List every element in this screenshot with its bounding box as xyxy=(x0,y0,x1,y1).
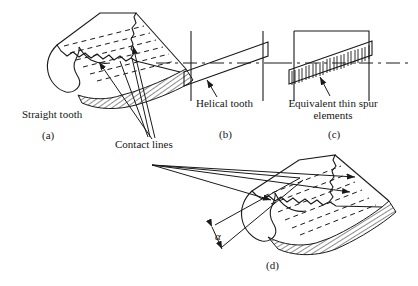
panel-d-tooth-profile-right xyxy=(275,193,306,211)
panel-a-contact-lines xyxy=(64,26,175,81)
panel-c-frame xyxy=(294,31,369,101)
panel-a-tooth-body xyxy=(57,13,136,61)
panel-c-leader xyxy=(320,77,330,96)
panel-d-end-face-lower xyxy=(330,202,382,207)
panel-a-tooth-profile xyxy=(47,45,79,92)
panel-d-helical-tooth-3d xyxy=(152,155,396,255)
caption-c: (c) xyxy=(328,128,340,140)
label-helical-tooth: Helical tooth xyxy=(196,97,253,109)
caption-d: (d) xyxy=(266,259,279,271)
gear-tooth-contact-lines-figure xyxy=(0,0,418,286)
panel-d-leader-arrows xyxy=(152,165,355,200)
panel-a-straight-tooth xyxy=(47,13,193,139)
label-contact-lines: Contact lines xyxy=(115,138,173,150)
panel-d-end-face-edge xyxy=(335,155,389,201)
panel-d-helix-angle-line xyxy=(222,180,303,247)
panel-b-helical-band xyxy=(184,42,268,86)
label-equivalent-thin-spur-elements: Equivalent thin spur elements xyxy=(288,97,378,121)
label-straight-tooth: Straight tooth xyxy=(22,108,82,120)
panel-c-equivalent-spur-elements xyxy=(278,31,412,101)
caption-a: (a) xyxy=(42,129,54,141)
caption-b: (b) xyxy=(219,128,232,140)
label-helix-angle-alpha: α xyxy=(215,230,221,242)
panel-d-hatched-root-surface xyxy=(268,201,396,255)
panel-b-leader xyxy=(207,80,217,97)
